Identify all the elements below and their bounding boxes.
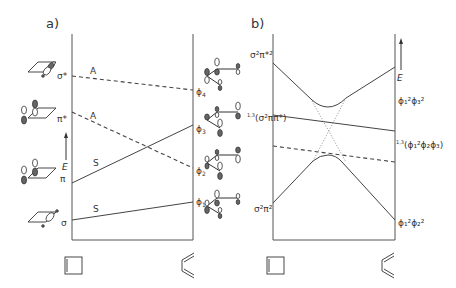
- orbital-label-phi4: ϕ4: [196, 87, 206, 98]
- state-label-triplet-sigma2-pi-pistar: 1,3(σ²ππ*): [247, 112, 287, 123]
- orbital-label-phi3: ϕ3: [196, 124, 206, 135]
- energy-axis-arrow-icon: [64, 132, 68, 160]
- correlation-line-pi-phi3: [72, 125, 193, 183]
- state-label-sigma: σ: [61, 218, 67, 228]
- orbital-label-phi2: ϕ2: [196, 166, 206, 177]
- state-label-sigma-star: σ*: [57, 71, 68, 81]
- panel-b: b) σ²π*² 1,3(σ²ππ*) σ²π² E ϕ₁²ϕ₃² 1,3(ϕ₁…: [247, 16, 443, 278]
- state-curve-lower: [273, 155, 395, 220]
- panel-b-label: b): [251, 16, 264, 31]
- symmetry-label-S: S: [93, 158, 99, 168]
- sigma-orbital-icon: [28, 210, 58, 228]
- state-label-sigma2-pistar2: σ²π*²: [250, 50, 273, 60]
- orbital-label-phi1: ϕ1: [196, 197, 206, 208]
- sigma-star-orbital-icon: [28, 61, 56, 77]
- state-label-triplet-phi1sq-phi2-phi3: 1,3(ϕ₁²ϕ₂ϕ₃): [396, 139, 443, 150]
- triplet-state-line: [273, 146, 395, 162]
- energy-axis-label: E: [62, 162, 68, 172]
- state-label-phi1sq-phi3sq: ϕ₁²ϕ₃²: [398, 96, 425, 106]
- state-curve-upper: [273, 63, 395, 107]
- pi-star-orbital-icon: [22, 100, 57, 124]
- phi1-orbital-icon: [205, 190, 240, 219]
- energy-axis-arrow-icon: [399, 38, 403, 70]
- state-label-sigma2-pi2: σ²π²: [254, 204, 273, 214]
- cyclobutene-icon: [267, 257, 284, 274]
- butadiene-icon: [382, 253, 394, 278]
- butadiene-icon: [182, 253, 194, 278]
- phi2-orbital-icon: [205, 147, 240, 180]
- state-label-pi: π: [60, 174, 66, 184]
- panel-a: a) A A S S σ* π* π σ E: [22, 16, 241, 278]
- energy-axis-label: E: [397, 73, 403, 83]
- state-line-middle: [273, 115, 395, 131]
- state-label-pi-star: π*: [57, 114, 67, 124]
- correlation-line-sigma-phi1: [72, 202, 193, 220]
- symmetry-label-S: S: [93, 204, 99, 214]
- phi3-orbital-icon: [205, 102, 241, 137]
- orbital-correlation-diagram: a) A A S S σ* π* π σ E: [0, 0, 456, 288]
- pi-orbital-icon: [22, 159, 57, 184]
- symmetry-label-A: A: [90, 66, 97, 76]
- cyclobutene-icon: [65, 257, 82, 274]
- panel-a-label: a): [46, 16, 59, 31]
- correlation-line-sigma-star-phi4: [72, 76, 193, 90]
- phi4-orbital-icon: [205, 58, 240, 91]
- symmetry-label-A: A: [90, 111, 97, 121]
- state-label-phi1sq-phi2sq: ϕ₁²ϕ₂²: [398, 218, 425, 228]
